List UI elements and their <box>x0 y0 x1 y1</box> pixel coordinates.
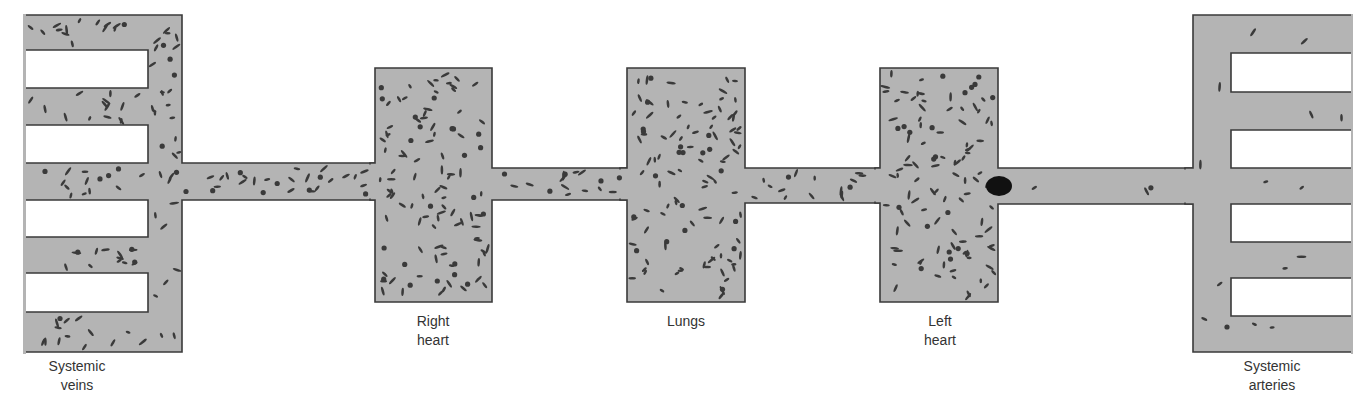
label-systemic-veins: Systemic veins <box>49 357 106 395</box>
label-systemic-arteries: Systemic arteries <box>1244 357 1301 395</box>
left-heart-chamber <box>868 68 1193 302</box>
right-heart-chamber <box>360 68 627 302</box>
embolus-clot <box>986 176 1012 196</box>
circulation-diagram <box>0 0 1364 419</box>
label-right-heart: Right heart <box>417 312 450 350</box>
label-lungs: Lungs <box>667 312 705 331</box>
label-left-heart: Left heart <box>924 312 956 350</box>
veins-outline <box>25 15 375 352</box>
lungs-chamber <box>615 68 880 302</box>
systemic-veins-vessels <box>23 14 375 354</box>
